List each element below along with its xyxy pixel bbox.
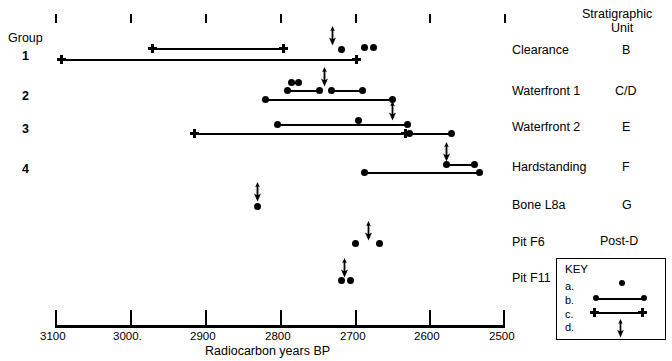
plus-marker [148,44,157,53]
axis-label-2900: 2900 [190,331,216,343]
phase-label-waterfront-2: Waterfront 2 [512,121,580,134]
top-tick-3000 [130,14,132,23]
date-dot [443,161,450,168]
axis-title: Radiocarbon years BP [205,345,330,358]
key-letter-c: c. [565,309,574,320]
strat-unit-g: G [622,199,632,212]
axis-label-2800: 2800 [265,331,291,343]
down-arrow-icon [319,67,330,87]
axis-tick-3000 [130,310,132,326]
top-tick-2900 [205,14,207,23]
axis-label-2700: 2700 [340,331,366,343]
key-symbol-plus-right [638,308,647,317]
date-dot [288,79,295,86]
top-tick-2800 [280,14,282,23]
date-dot [262,96,269,103]
axis-tick-2700 [355,310,357,326]
date-dot [347,277,354,284]
key-title: KEY [565,264,588,276]
plus-marker [279,44,288,53]
date-dot [328,87,335,94]
key-letter-a: a. [565,281,574,292]
range-line [365,172,479,174]
plus-marker [190,129,199,138]
date-dot [370,44,377,51]
top-tick-3100 [55,14,57,23]
date-dot [404,121,411,128]
key-symbol-plus-line [597,312,643,314]
date-dot [295,79,302,86]
key-box: KEY a. b. c. d. [556,258,666,340]
strat-unit-e: E [622,121,630,134]
date-dot [274,121,281,128]
date-dot [361,169,368,176]
key-letter-b: b. [565,295,574,306]
group-column-header: Group [8,32,43,45]
down-arrow-icon [339,258,350,278]
top-tick-2500 [504,14,506,23]
axis-tick-3100 [55,310,57,326]
post-d-label: Post-D [600,235,638,248]
radiocarbon-chart-figure: Group 1 2 3 4 [0,0,672,361]
date-dot [355,117,362,124]
key-symbol-dot-right [641,295,647,301]
strat-unit-b: B [622,44,630,57]
plus-marker [57,55,66,64]
date-dot [376,240,383,247]
key-symbol-plus-left [590,308,599,317]
range-line [278,124,408,126]
key-symbol-down-arrow-icon [615,319,626,339]
strat-unit-f: F [622,161,630,174]
range-line [266,99,393,101]
range-line [410,133,452,135]
down-arrow-icon [441,142,452,162]
date-dot [361,44,368,51]
down-arrow-icon [363,221,374,241]
phase-label-bone-l8a: Bone L8a [512,199,566,212]
down-arrow-icon [327,26,338,46]
axis-label-2500: 2500 [489,331,515,343]
range-line [195,133,407,135]
axis-label-3100: 3100 [40,331,66,343]
axis-label-2600: 2600 [414,331,440,343]
date-dot [406,130,413,137]
key-symbol-dot-left [593,295,599,301]
top-tick-2700 [355,14,357,23]
date-dot [352,240,359,247]
date-dot [254,203,261,210]
group-number-2: 2 [22,90,29,103]
phase-label-hardstanding: Hardstanding [512,161,586,174]
date-dot [448,130,455,137]
phase-label-pit-f11: Pit F11 [512,272,551,285]
strat-header-line1: Stratigraphic [582,8,652,21]
axis-tick-2600 [429,310,431,326]
axis-tick-2800 [280,310,282,326]
strat-header-line2: Unit [611,22,633,35]
strat-unit-cd: C/D [615,85,637,98]
phase-label-clearance: Clearance [512,44,569,57]
top-tick-2600 [429,14,431,23]
group-number-1: 1 [22,50,29,63]
group-number-3: 3 [22,123,29,136]
date-dot [471,161,478,168]
key-symbol-dot-line [597,298,643,300]
axis-tick-2500 [503,310,505,326]
date-dot [338,277,345,284]
key-symbol-single-dot [619,280,625,286]
phase-label-waterfront-1: Waterfront 1 [512,85,580,98]
axis-label-3000: 3000. [113,331,142,343]
down-arrow-icon [387,101,398,121]
key-letter-d: d. [565,322,574,333]
date-dot [338,46,345,53]
axis-tick-2900 [205,310,207,326]
phase-label-pit-f6: Pit F6 [512,236,545,249]
group-number-4: 4 [22,163,29,176]
range-line [62,59,358,61]
down-arrow-icon [252,182,263,202]
date-dot [316,87,323,94]
range-line [332,90,362,92]
date-dot [284,87,291,94]
plus-marker [352,55,361,64]
range-line [153,48,283,50]
date-dot [476,169,483,176]
